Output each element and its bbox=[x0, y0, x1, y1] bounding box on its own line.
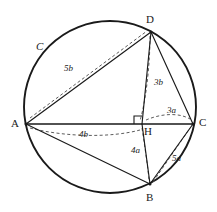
label-circle-C: C bbox=[36, 41, 43, 52]
label-4a: 4a bbox=[131, 146, 140, 155]
vertex-label-D: D bbox=[146, 14, 154, 25]
dashed-measure-group bbox=[30, 31, 190, 182]
segment-DH bbox=[142, 32, 151, 124]
vertex-dot-A bbox=[25, 123, 28, 126]
vertex-label-C: C bbox=[199, 117, 206, 128]
label-5b: 5b bbox=[64, 64, 73, 73]
dashed-measure-HC bbox=[146, 115, 190, 120]
geometry-figure: D A C B H C 5b 3b 4b 3a 4a 5a bbox=[0, 0, 217, 212]
vertex-dot-D bbox=[150, 31, 153, 34]
vertex-label-B: B bbox=[146, 192, 153, 203]
label-5a: 5a bbox=[172, 154, 181, 163]
vertex-label-A: A bbox=[11, 118, 19, 129]
label-4b: 4b bbox=[79, 130, 88, 139]
vertex-dot-C bbox=[192, 123, 195, 126]
vertex-label-H: H bbox=[144, 126, 152, 137]
label-3b: 3b bbox=[154, 78, 163, 87]
label-3a: 3a bbox=[167, 106, 176, 115]
dashed-measure-AD bbox=[30, 31, 147, 118]
geometry-canvas bbox=[0, 0, 217, 212]
vertex-dot-B bbox=[149, 183, 152, 186]
dashed-measure-DH bbox=[140, 36, 150, 121]
segment-AD bbox=[26, 32, 151, 124]
